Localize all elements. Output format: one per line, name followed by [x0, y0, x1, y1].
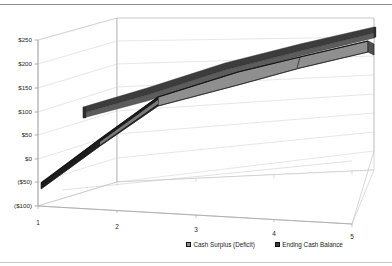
series-back-start-cap [83, 107, 86, 118]
series-swatch-icon [186, 242, 191, 247]
x-tick-label: 1 [36, 219, 40, 226]
y-tick-label: ($100) [14, 202, 32, 209]
y-tick-label: $250 [18, 36, 32, 43]
y-tick-label: $100 [18, 108, 32, 115]
y-tick-label: ($50) [18, 178, 32, 185]
y-tick-label: $200 [18, 60, 32, 67]
chart-plot-area: $250 $200 $150 $100 $50 $0 ($50) ($100) [0, 0, 392, 266]
legend-item-cash-surplus[interactable]: Cash Surplus (Deficit) [186, 242, 255, 248]
x-tick-label: 4 [272, 230, 276, 237]
legend-label: Cash Surplus (Deficit) [194, 242, 255, 248]
y-axis: $250 $200 $150 $100 $50 $0 ($50) ($100) [14, 36, 38, 209]
x-tick-label: 3 [194, 226, 198, 233]
chart-frame: $250 $200 $150 $100 $50 $0 ($50) ($100) [0, 0, 392, 266]
chart-legend: Cash Surplus (Deficit) Ending Cash Balan… [186, 238, 386, 252]
x-tick-label: 2 [115, 223, 119, 230]
legend-item-ending-cash-balance[interactable]: Ending Cash Balance [275, 242, 343, 248]
legend-label: Ending Cash Balance [282, 242, 343, 248]
y-tick-label: $150 [18, 84, 32, 91]
y-tick-label: $50 [22, 131, 33, 138]
series-back-end-cap [374, 27, 376, 38]
series-swatch-icon [275, 242, 280, 247]
y-tick-label: $0 [25, 155, 32, 162]
bottom-divider [0, 262, 392, 263]
